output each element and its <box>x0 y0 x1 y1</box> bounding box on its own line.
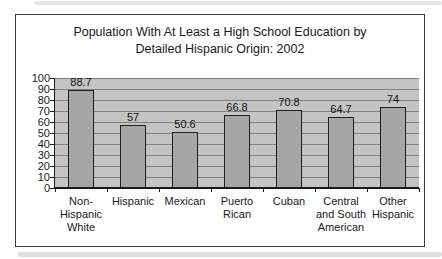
category-label-line: and South <box>311 208 371 221</box>
category-label-line: Rican <box>207 208 267 221</box>
category-label-line: Central <box>311 195 371 208</box>
bar-5 <box>328 117 354 188</box>
bar-2 <box>172 132 198 188</box>
x-axis <box>54 187 419 189</box>
category-label-line: Other <box>363 195 423 208</box>
x-axis-tick-7 <box>419 188 420 192</box>
gridline-90 <box>55 89 419 90</box>
y-axis-label-10: 10 <box>16 171 50 183</box>
bar-value-label-3: 66.8 <box>211 101 263 113</box>
bar-value-label-0: 88.7 <box>55 76 107 88</box>
y-axis-label-0: 0 <box>16 182 50 194</box>
y-axis-label-60: 60 <box>16 116 50 128</box>
category-label-2: Mexican <box>155 195 215 208</box>
category-label-line: Cuban <box>259 195 319 208</box>
y-axis <box>54 78 55 189</box>
category-label-0: Non-HispanicWhite <box>51 195 111 234</box>
bar-6 <box>380 107 406 188</box>
category-label-4: Cuban <box>259 195 319 208</box>
category-label-1: Hispanic <box>103 195 163 208</box>
scan-artifact-top <box>34 1 442 5</box>
bar-value-label-5: 64.7 <box>315 103 367 115</box>
y-axis-label-90: 90 <box>16 83 50 95</box>
y-axis-label-100: 100 <box>16 72 50 84</box>
scan-artifact-bottom <box>18 252 442 257</box>
category-label-6: OtherHispanic <box>363 195 423 221</box>
plot-layer: 010203040506070809010088.7Non-HispanicWh… <box>16 15 424 246</box>
y-axis-label-50: 50 <box>16 127 50 139</box>
bar-value-label-2: 50.6 <box>159 118 211 130</box>
chart-frame: Population With At Least a High School E… <box>15 14 425 247</box>
category-label-3: PuertoRican <box>207 195 267 221</box>
bar-value-label-1: 57 <box>107 111 159 123</box>
category-label-line: Hispanic <box>363 208 423 221</box>
y-axis-label-40: 40 <box>16 138 50 150</box>
screenshot-root: { "chart_data": { "type": "bar", "title"… <box>0 0 442 259</box>
bar-value-label-4: 70.8 <box>263 96 315 108</box>
category-label-line: Puerto <box>207 195 267 208</box>
gridline-100 <box>55 78 419 79</box>
y-axis-label-80: 80 <box>16 94 50 106</box>
y-axis-label-70: 70 <box>16 105 50 117</box>
bar-4 <box>276 110 302 188</box>
y-axis-label-20: 20 <box>16 160 50 172</box>
category-label-line: White <box>51 221 111 234</box>
category-label-line: Mexican <box>155 195 215 208</box>
y-axis-label-30: 30 <box>16 149 50 161</box>
bar-1 <box>120 125 146 188</box>
bar-value-label-6: 74 <box>367 93 419 105</box>
category-label-line: Hispanic <box>51 208 111 221</box>
category-label-5: Centraland SouthAmerican <box>311 195 371 234</box>
category-label-line: American <box>311 221 371 234</box>
category-label-line: Non- <box>51 195 111 208</box>
category-label-line: Hispanic <box>103 195 163 208</box>
bar-0 <box>68 90 94 188</box>
bar-3 <box>224 115 250 188</box>
